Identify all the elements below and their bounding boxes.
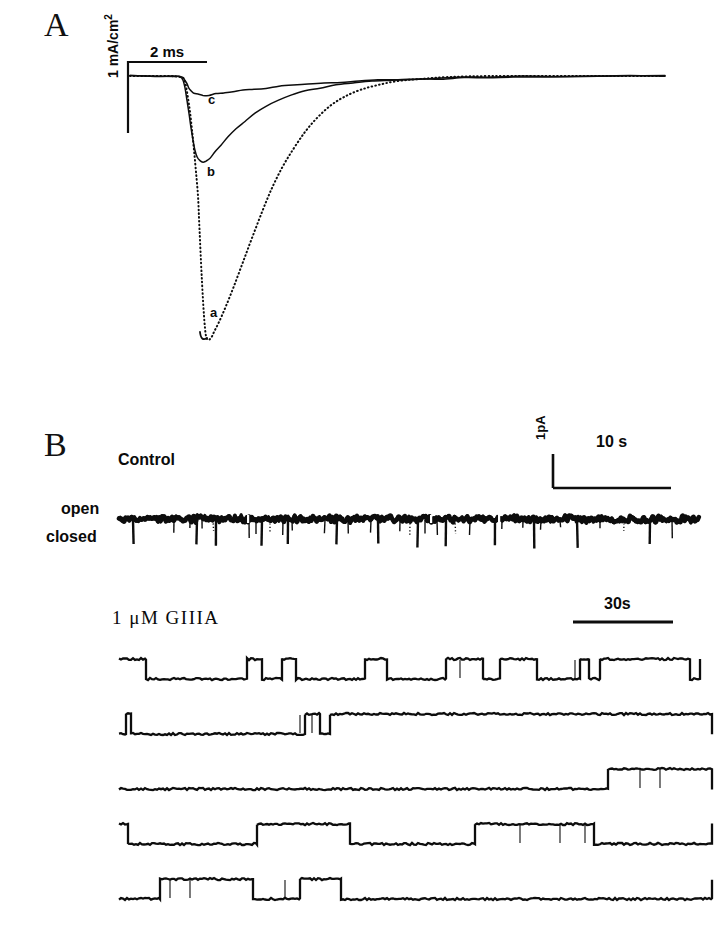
panel-b-control-closure-event xyxy=(371,520,372,533)
panel-b-control-band-gap xyxy=(247,515,249,523)
panel-b-giiia-trace-row-2 xyxy=(119,713,712,735)
panel-b-giiia-trace-row-4 xyxy=(119,823,712,845)
panel-b-giiia-trace-row-3 xyxy=(119,768,712,790)
panel-b-control-closure-event xyxy=(133,520,134,544)
panel-b-drug-traces xyxy=(119,658,712,900)
panel-b-control-trace xyxy=(119,515,699,549)
panel-b-plot xyxy=(0,0,726,937)
panel-b-control-scale-bar xyxy=(553,454,671,488)
panel-b-control-closure-event xyxy=(577,520,578,548)
panel-b-control-band-gap xyxy=(498,515,500,523)
panel-b-control-closure-event xyxy=(336,520,337,544)
panel-b-giiia-trace-row-1 xyxy=(119,658,700,680)
panel-b-control-closure-event xyxy=(470,520,471,535)
figure-root: A 2 ms 1 mA/cm2 a b c B Control open clo… xyxy=(0,0,726,937)
panel-b-control-band-gap xyxy=(430,515,432,523)
panel-b-control-closure-event xyxy=(262,520,263,546)
panel-b-giiia-trace-row-5 xyxy=(119,878,712,900)
panel-b-control-closure-event xyxy=(560,520,561,527)
panel-b-control-closure-event xyxy=(196,520,197,544)
panel-b-control-closure-event xyxy=(541,520,542,530)
panel-b-control-closure-event xyxy=(324,520,325,533)
panel-b-control-closure-event xyxy=(417,520,418,548)
